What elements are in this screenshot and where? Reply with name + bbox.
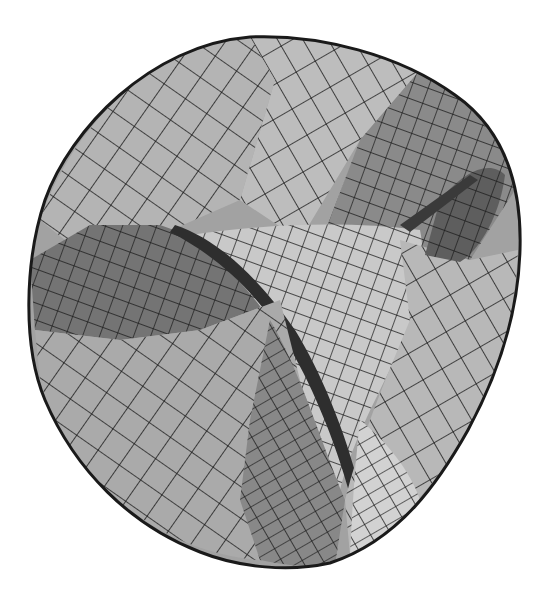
- surface-render: [0, 0, 552, 609]
- surface-figure: [0, 0, 552, 609]
- surface-body: [0, 0, 552, 609]
